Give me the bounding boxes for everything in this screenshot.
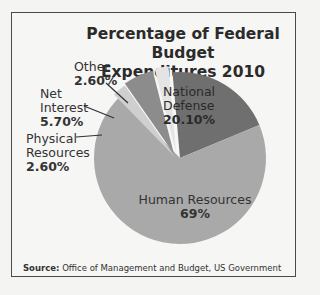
label-other: Other 2.60% bbox=[74, 60, 117, 88]
label-human-resources: Human Resources 69% bbox=[135, 193, 255, 221]
source-note: Source: Office of Management and Budget,… bbox=[23, 263, 281, 273]
label-net-interest: Net Interest 5.70% bbox=[40, 87, 88, 129]
label-physical-resources: Physical Resources 2.60% bbox=[26, 132, 90, 174]
label-national-defense: National Defense 20.10% bbox=[163, 85, 215, 127]
